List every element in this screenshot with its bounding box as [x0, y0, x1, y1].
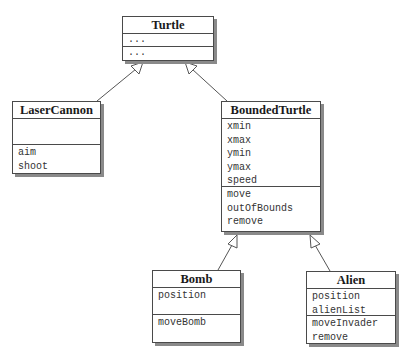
class-bomb: Bomb position moveBomb: [152, 270, 241, 343]
class-name: BoundedTurtle: [222, 102, 320, 119]
attribute: position: [312, 290, 395, 304]
attribute: ...: [128, 35, 213, 45]
class-boundedturtle: BoundedTurtle xmin xmax ymin ymax speed …: [221, 101, 321, 232]
class-name: Bomb: [153, 271, 240, 288]
attributes-section: position: [153, 288, 240, 315]
class-lasercannon: LaserCannon aim shoot: [12, 101, 101, 174]
inheritance-arrow-alien-boundedturtle: [310, 235, 330, 271]
attributes-section: position alienList: [307, 289, 395, 316]
class-name: LaserCannon: [13, 102, 100, 119]
operation: remove: [312, 331, 395, 345]
inheritance-arrow-boundedturtle-turtle: [185, 62, 227, 101]
attribute: alienList: [312, 304, 395, 318]
class-name: Alien: [307, 272, 395, 289]
class-turtle: Turtle ... ...: [122, 16, 214, 61]
operation: moveBomb: [158, 316, 240, 330]
operation: ...: [128, 48, 213, 58]
inheritance-arrow-bomb-boundedturtle: [218, 235, 237, 270]
operations-section: moveInvader remove: [307, 316, 395, 343]
attribute: ymax: [227, 161, 320, 175]
inheritance-arrow-lasercannon-turtle: [97, 62, 143, 101]
operation: remove: [227, 215, 320, 229]
attribute: xmax: [227, 134, 320, 148]
attributes-section: xmin xmax ymin ymax speed: [222, 119, 320, 187]
class-name: Turtle: [123, 17, 213, 34]
operations-section: ...: [123, 47, 213, 60]
class-alien: Alien position alienList moveInvader rem…: [306, 271, 396, 344]
attribute: speed: [227, 174, 320, 188]
attributes-section: ...: [123, 34, 213, 47]
operation: moveInvader: [312, 317, 395, 331]
operation: aim: [18, 146, 100, 160]
attribute: ymin: [227, 147, 320, 161]
attribute: position: [158, 289, 240, 303]
attribute: xmin: [227, 120, 320, 134]
attributes-section: [13, 119, 100, 145]
operations-section: moveBomb: [153, 315, 240, 342]
operations-section: move outOfBounds remove: [222, 187, 320, 231]
operation: outOfBounds: [227, 202, 320, 216]
operation: shoot: [18, 160, 100, 174]
operation: move: [227, 188, 320, 202]
operations-section: aim shoot: [13, 145, 100, 173]
